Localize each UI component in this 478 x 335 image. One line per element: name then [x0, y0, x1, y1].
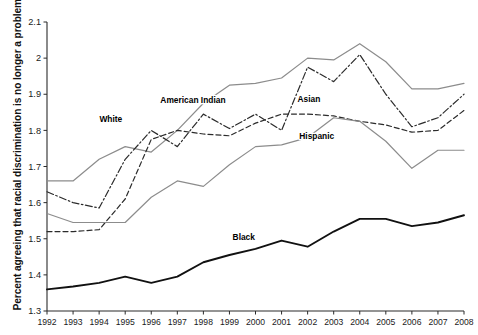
x-axis-tick-label: 2008: [454, 317, 473, 327]
x-axis-tick-label: 2003: [324, 317, 343, 327]
x-axis-tick-label: 1996: [142, 317, 161, 327]
x-axis-tick-label: 2004: [350, 317, 369, 327]
x-axis-tick-label: 2002: [298, 317, 317, 327]
series-line-hispanic: [47, 118, 464, 223]
y-axis-tick-label: 1.4: [28, 270, 41, 280]
x-axis-tick-label: 1995: [116, 317, 135, 327]
series-line-black: [47, 215, 464, 289]
series-label-hispanic: Hispanic: [299, 131, 334, 141]
x-axis-tick-label: 2007: [428, 317, 447, 327]
y-axis-tick-label: 1.5: [28, 234, 41, 244]
y-axis-tick-label: 1.6: [28, 198, 41, 208]
line-chart: Percent agreeing that racial discriminat…: [0, 0, 478, 335]
chart-canvas: 2.121.91.81.71.61.51.41.3199219931994199…: [0, 0, 478, 335]
series-label-asian: Asian: [298, 94, 321, 104]
series-line-white: [47, 44, 464, 181]
y-axis-tick-label: 1.8: [28, 126, 41, 136]
x-axis-tick-label: 1999: [220, 317, 239, 327]
series-label-black: Black: [233, 232, 256, 242]
x-axis-tick-label: 1997: [168, 317, 187, 327]
series-line-asian: [47, 111, 464, 232]
x-axis-tick-label: 1992: [37, 317, 56, 327]
x-axis-tick-label: 2006: [402, 317, 421, 327]
x-axis-tick-label: 1998: [194, 317, 213, 327]
y-axis-tick-label: 1.7: [28, 162, 41, 172]
y-axis-tick-label: 1.3: [28, 306, 41, 316]
x-axis-tick-label: 2001: [272, 317, 291, 327]
series-label-american-indian: American Indian: [160, 95, 225, 105]
x-axis-tick-label: 1994: [90, 317, 109, 327]
y-axis-tick-label: 1.9: [28, 89, 41, 99]
series-label-white: White: [99, 114, 122, 124]
y-axis-tick-label: 2: [36, 53, 41, 63]
x-axis-tick-label: 2000: [246, 317, 265, 327]
x-axis-tick-label: 2005: [376, 317, 395, 327]
x-axis-tick-label: 1993: [64, 317, 83, 327]
y-axis-tick-label: 2.1: [28, 17, 41, 27]
